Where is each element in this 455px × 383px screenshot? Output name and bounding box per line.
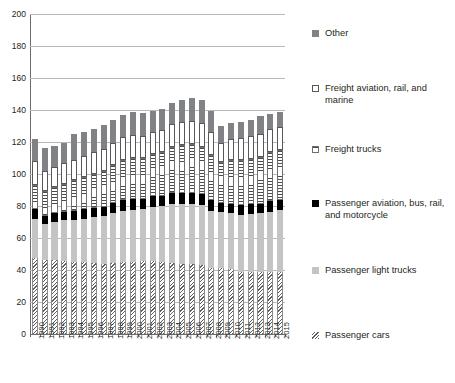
segment-passenger-light-trucks-2006	[189, 204, 195, 264]
segment-passenger-aviation-bus-rail-motorcycle-2010	[228, 204, 234, 214]
diagonal-hatch-square-icon	[312, 332, 319, 339]
segment-passenger-light-trucks-2010	[228, 213, 234, 269]
segment-freight-trucks-1999	[120, 160, 126, 200]
segment-passenger-aviation-bus-rail-motorcycle-1997	[101, 207, 107, 217]
legend-item-other[interactable]: Other	[312, 28, 348, 40]
plot-area	[30, 14, 285, 334]
segment-passenger-aviation-bus-rail-motorcycle-1999	[120, 200, 126, 210]
segment-freight-trucks-2011	[238, 160, 244, 205]
segment-passenger-light-trucks-1995	[81, 219, 87, 262]
y-tick-label-80: 80	[0, 202, 26, 211]
bar-2001	[140, 14, 146, 334]
segment-freight-trucks-1994	[71, 180, 77, 210]
segment-freight-aviation-rail-marine-1994	[71, 160, 77, 181]
bar-1990	[32, 14, 38, 334]
segment-freight-trucks-2008	[208, 155, 214, 201]
segment-other-2015	[277, 112, 283, 126]
x-tick-label-1998: 1998	[117, 322, 125, 339]
segment-freight-trucks-2001	[140, 158, 146, 199]
segment-freight-trucks-2014	[267, 152, 273, 201]
segment-other-2010	[228, 123, 234, 139]
segment-freight-aviation-rail-marine-1992	[51, 167, 57, 187]
segment-passenger-aviation-bus-rail-motorcycle-2000	[130, 199, 136, 210]
segment-freight-aviation-rail-marine-2009	[218, 143, 224, 162]
legend-item-passenger-cars[interactable]: Passenger cars	[312, 330, 390, 342]
segment-passenger-aviation-bus-rail-motorcycle-1998	[110, 203, 116, 213]
segment-freight-aviation-rail-marine-1990	[32, 161, 38, 185]
segment-passenger-light-trucks-2015	[277, 210, 283, 272]
segment-other-1999	[120, 115, 126, 137]
bar-1997	[101, 14, 107, 334]
segment-other-1990	[32, 139, 38, 161]
segment-freight-aviation-rail-marine-2002	[150, 132, 156, 154]
segment-freight-aviation-rail-marine-2004	[169, 124, 175, 146]
legend-item-freight-aviation-rail-and-marine[interactable]: Freight aviation, rail, and marine	[312, 83, 449, 106]
segment-freight-aviation-rail-marine-2007	[199, 123, 205, 147]
legend-item-passenger-aviation-bus-rail-and-motorcycle[interactable]: Passenger aviation, bus, rail, and motor…	[312, 198, 449, 221]
legend-item-passenger-light-trucks[interactable]: Passenger light trucks	[312, 265, 416, 277]
segment-passenger-aviation-bus-rail-motorcycle-2015	[277, 200, 283, 210]
x-tick-label-1990: 1990	[38, 322, 46, 339]
segment-freight-trucks-1993	[61, 184, 67, 212]
segment-other-2006	[189, 98, 195, 121]
segment-freight-trucks-1991	[42, 191, 48, 216]
bar-2005	[179, 14, 185, 334]
x-tick-label-2010: 2010	[234, 322, 242, 339]
segment-freight-trucks-1998	[110, 165, 116, 203]
solid-gray-square-icon	[312, 30, 319, 37]
segment-freight-trucks-1990	[32, 185, 38, 209]
segment-other-1997	[101, 125, 107, 149]
segment-freight-trucks-2004	[169, 147, 175, 193]
segment-freight-trucks-2007	[199, 147, 205, 194]
x-tick-label-1995: 1995	[87, 322, 95, 339]
bar-2004	[169, 14, 175, 334]
bar-1994	[71, 14, 77, 334]
segment-other-2011	[238, 122, 244, 138]
segment-other-2002	[150, 111, 156, 133]
x-tick-label-1993: 1993	[68, 322, 76, 339]
segment-freight-aviation-rail-marine-2006	[189, 121, 195, 144]
bar-2010	[228, 14, 234, 334]
solid-black-square-icon	[312, 200, 319, 207]
segment-other-2014	[267, 114, 273, 129]
segment-passenger-light-trucks-2012	[248, 214, 254, 272]
segment-other-2008	[208, 111, 214, 133]
legend-item-label: Passenger aviation, bus, rail, and motor…	[325, 198, 449, 221]
segment-passenger-light-trucks-2003	[159, 206, 165, 262]
segment-passenger-aviation-bus-rail-motorcycle-1990	[32, 209, 38, 219]
segment-freight-aviation-rail-marine-1995	[81, 156, 87, 177]
segment-passenger-aviation-bus-rail-motorcycle-2003	[159, 196, 165, 206]
bar-1992	[51, 14, 57, 334]
x-tick-label-2014: 2014	[273, 322, 281, 339]
x-tick-label-1994: 1994	[77, 322, 85, 339]
segment-freight-trucks-2015	[277, 150, 283, 200]
segment-passenger-aviation-bus-rail-motorcycle-1993	[61, 212, 67, 221]
segment-passenger-aviation-bus-rail-motorcycle-2008	[208, 200, 214, 210]
bar-2015	[277, 14, 283, 334]
x-tick-label-2000: 2000	[136, 322, 144, 339]
x-tick-label-2006: 2006	[195, 322, 203, 339]
segment-freight-aviation-rail-marine-2014	[267, 129, 273, 152]
segment-passenger-light-trucks-1999	[120, 211, 126, 262]
segment-other-1993	[61, 143, 67, 163]
segment-freight-aviation-rail-marine-2005	[179, 122, 185, 145]
bar-2003	[159, 14, 165, 334]
segment-freight-aviation-rail-marine-2012	[248, 136, 254, 158]
segment-freight-trucks-2002	[150, 154, 156, 196]
segment-other-2005	[179, 100, 185, 122]
segment-other-2009	[218, 126, 224, 143]
bar-2006	[189, 14, 195, 334]
y-tick-label-180: 180	[0, 42, 26, 51]
segment-other-2007	[199, 100, 205, 123]
bar-2008	[208, 14, 214, 334]
segment-passenger-aviation-bus-rail-motorcycle-1992	[51, 213, 57, 222]
bar-2013	[257, 14, 263, 334]
segment-passenger-aviation-bus-rail-motorcycle-2009	[218, 203, 224, 213]
legend-item-freight-trucks[interactable]: Freight trucks	[312, 144, 381, 156]
segment-passenger-light-trucks-2005	[179, 204, 185, 263]
segment-passenger-aviation-bus-rail-motorcycle-1995	[81, 209, 87, 219]
x-tick-label-2003: 2003	[166, 322, 174, 339]
segment-freight-trucks-2013	[257, 157, 263, 203]
segment-other-2004	[169, 103, 175, 125]
white-outline-square-icon	[312, 85, 319, 92]
